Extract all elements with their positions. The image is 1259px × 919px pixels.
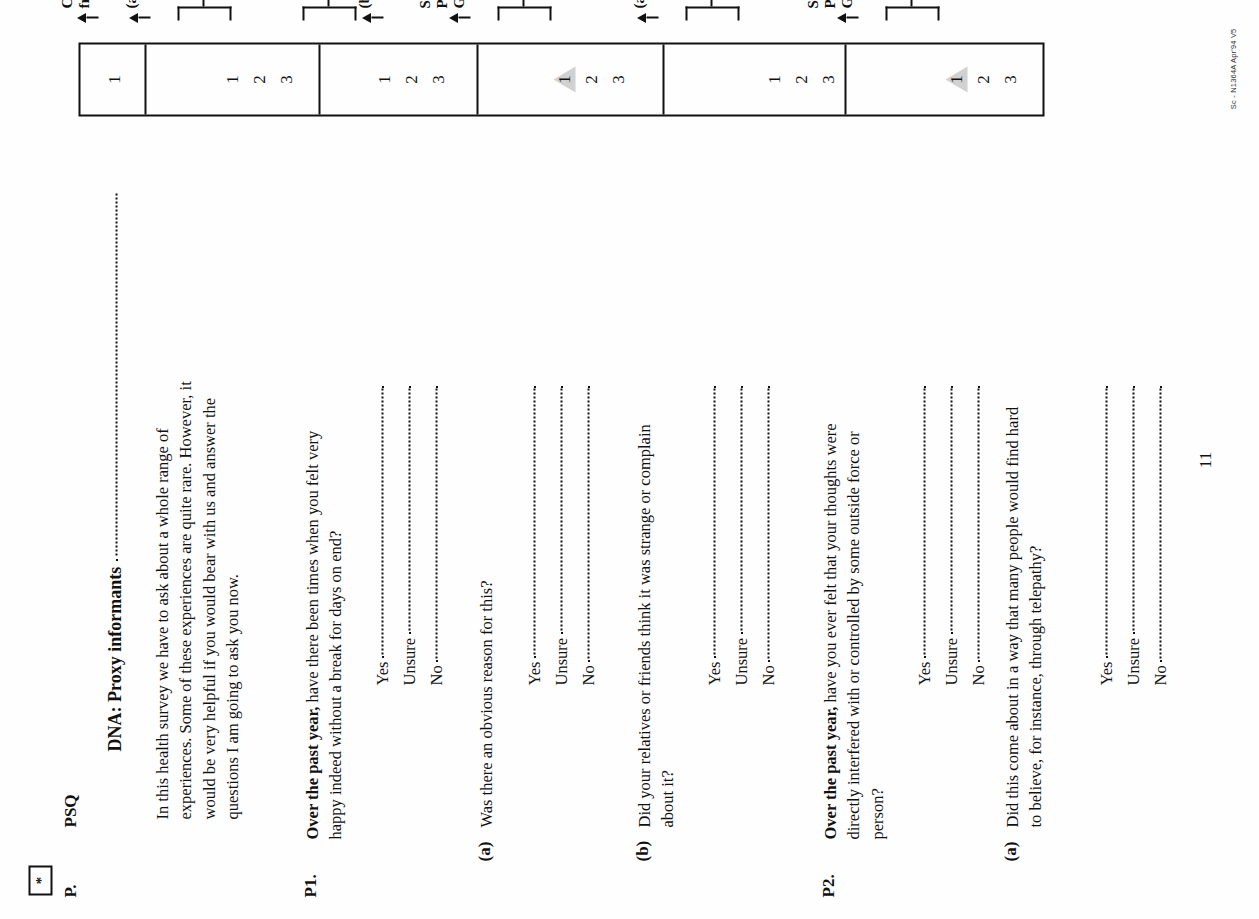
option-label-unsure: Unsure xyxy=(731,637,751,685)
option-label-unsure: Unsure xyxy=(399,637,419,685)
question-text-p2: Over the past year, have you ever felt t… xyxy=(818,409,888,839)
route-bracket xyxy=(177,6,231,20)
dot-leader xyxy=(533,385,535,657)
code-slot-screen-positive[interactable]: 1 xyxy=(942,44,969,114)
route-bracket xyxy=(497,6,551,20)
code-slot[interactable]: 2 xyxy=(245,44,272,114)
asterisk-marker-box: * xyxy=(28,865,52,895)
code-digit: 2 xyxy=(973,75,993,84)
arrowhead-icon xyxy=(637,13,646,23)
route-line xyxy=(458,16,470,18)
route-line xyxy=(327,0,329,6)
grid-cell-p1b: 1 2 3 xyxy=(478,44,664,114)
dot-leader xyxy=(1132,385,1134,633)
code-slot[interactable]: 3 xyxy=(996,44,1023,114)
page-number: 11 xyxy=(1195,451,1215,467)
code-digit: 1 xyxy=(374,75,394,84)
dot-leader xyxy=(587,385,589,661)
route-label-a: (a) xyxy=(122,0,139,8)
questionnaire-page: * P. PSQ DNA: Proxy informants In this h… xyxy=(0,0,1259,919)
route-line xyxy=(202,0,204,6)
section-title-row: DNA: Proxy informants xyxy=(104,191,125,751)
option-row-yes[interactable]: Yes xyxy=(914,385,941,685)
code-slot[interactable]: 3 xyxy=(604,44,631,114)
code-slot[interactable]: 3 xyxy=(272,44,299,114)
scanned-page-canvas: * P. PSQ DNA: Proxy informants In this h… xyxy=(0,0,1259,919)
code-slot[interactable]: 2 xyxy=(397,44,424,114)
option-label-yes: Yes xyxy=(524,661,544,685)
dot-leader xyxy=(1159,385,1161,661)
code-slot[interactable]: 1 xyxy=(760,44,787,114)
options-p2: Yes Unsure No xyxy=(914,385,995,685)
options-p1a: Yes Unsure No xyxy=(524,385,605,685)
dot-leader xyxy=(767,385,769,661)
option-row-unsure[interactable]: Unsure xyxy=(1123,385,1150,685)
code-digit: 3 xyxy=(276,75,296,84)
code-slot[interactable]: 3 xyxy=(814,44,841,114)
option-row-no[interactable]: No xyxy=(578,385,605,685)
question-text-p1: Over the past year, have there been time… xyxy=(300,409,347,839)
code-digit: 1 xyxy=(222,75,242,84)
option-row-unsure[interactable]: Unsure xyxy=(399,385,426,685)
options-p1: Yes Unsure No xyxy=(372,385,453,685)
code-slot-screen-positive[interactable]: 1 xyxy=(550,44,577,114)
option-label-unsure: Unsure xyxy=(551,637,571,685)
dot-leader xyxy=(923,385,925,657)
route-label-b: (b) xyxy=(355,0,372,8)
question-number-p1a: (a) xyxy=(474,841,494,861)
section-title: DNA: Proxy informants xyxy=(104,566,125,751)
route-line xyxy=(646,16,658,18)
grid-cell-front-page: 1 xyxy=(80,44,146,114)
code-digit: 2 xyxy=(249,75,269,84)
option-row-yes[interactable]: Yes xyxy=(524,385,551,685)
option-row-no[interactable]: No xyxy=(426,385,453,685)
option-label-unsure: Unsure xyxy=(1123,637,1143,685)
option-row-yes[interactable]: Yes xyxy=(1096,385,1123,685)
code-slot[interactable]: 2 xyxy=(969,44,996,114)
dot-leader xyxy=(950,385,952,633)
code-digit: 3 xyxy=(608,75,628,84)
question-number-p1: P1. xyxy=(300,874,320,897)
route-label-screen-positive: Screen Positive, Go to P6 xyxy=(416,0,466,8)
dot-leader xyxy=(1105,385,1107,657)
route-bracket xyxy=(885,6,939,20)
option-row-no[interactable]: No xyxy=(968,385,995,685)
code-slot[interactable]: 1 xyxy=(100,44,127,114)
code-digit: 3 xyxy=(1000,75,1020,84)
question-text-p1a: Was there an obvious reason for this? xyxy=(474,397,497,827)
option-row-no[interactable]: No xyxy=(758,385,785,685)
option-row-unsure[interactable]: Unsure xyxy=(941,385,968,685)
option-row-yes[interactable]: Yes xyxy=(372,385,399,685)
dot-leader xyxy=(408,385,410,633)
route-line xyxy=(86,16,98,18)
coding-grid: 1 1 2 3 1 2 xyxy=(78,42,1044,116)
route-bracket xyxy=(302,6,356,20)
code-digit: 2 xyxy=(791,75,811,84)
route-line xyxy=(910,0,912,6)
code-slot[interactable]: 2 xyxy=(577,44,604,114)
option-row-yes[interactable]: Yes xyxy=(704,385,731,685)
question-text-p1b: Did your relatives or friends think it w… xyxy=(632,397,679,827)
option-row-no[interactable]: No xyxy=(1150,385,1177,685)
option-label-yes: Yes xyxy=(1096,661,1116,685)
route-label-screen-positive: Screen Positive, Go to P6 xyxy=(804,0,854,8)
grid-cell-p1: 1 2 3 xyxy=(146,44,320,114)
code-slot[interactable]: 3 xyxy=(424,44,451,114)
route-label-a: (a) xyxy=(630,0,647,8)
route-label-complete-front-page: Complete front page xyxy=(58,0,92,8)
arrowhead-icon xyxy=(837,13,846,23)
route-line xyxy=(522,0,524,6)
code-slot[interactable]: 1 xyxy=(370,44,397,114)
code-digit: 1 xyxy=(554,75,574,84)
code-slot[interactable]: 1 xyxy=(218,44,245,114)
option-row-unsure[interactable]: Unsure xyxy=(551,385,578,685)
code-slot[interactable]: 2 xyxy=(787,44,814,114)
grid-cell-p2a: 1 2 3 xyxy=(846,44,1042,114)
option-label-yes: Yes xyxy=(372,661,392,685)
arrowhead-icon xyxy=(77,13,86,23)
code-digit: 1 xyxy=(104,75,124,84)
option-row-unsure[interactable]: Unsure xyxy=(731,385,758,685)
question-number-p2a: (a) xyxy=(1000,841,1020,861)
option-label-no: No xyxy=(758,665,778,685)
option-label-no: No xyxy=(426,665,446,685)
